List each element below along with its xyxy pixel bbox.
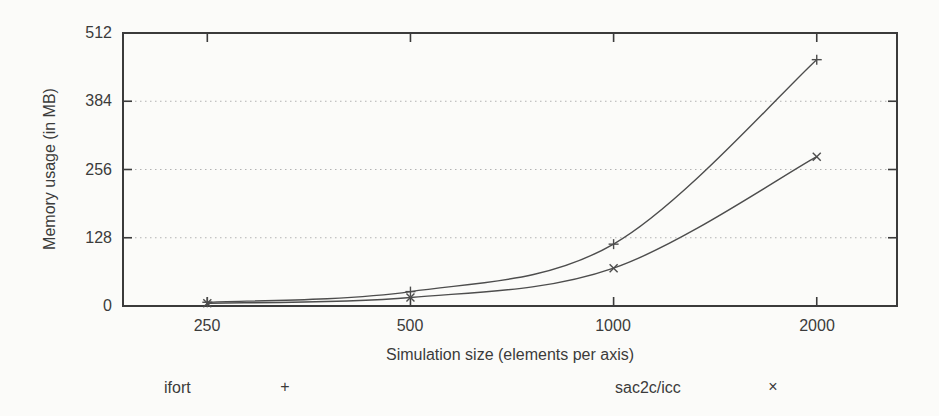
marker-cross-sac2c-icc-1000 bbox=[610, 264, 618, 272]
y-tick-label-128: 128 bbox=[40, 229, 112, 247]
x-tick-label-1000: 1000 bbox=[573, 316, 653, 336]
x-axis-title: Simulation size (elements per axis) bbox=[123, 345, 897, 365]
legend-label-sac2c-icc: sac2c/icc bbox=[615, 378, 681, 398]
y-tick-label-512: 512 bbox=[40, 24, 112, 42]
marker-plus-ifort-500 bbox=[405, 287, 415, 297]
cross-marker-icon: × bbox=[758, 377, 788, 397]
marker-cross-sac2c-icc-2000 bbox=[813, 153, 821, 161]
x-tick-label-250: 250 bbox=[167, 316, 247, 336]
x-tick-label-2000: 2000 bbox=[777, 316, 857, 336]
y-tick-label-384: 384 bbox=[40, 92, 112, 110]
plus-marker-icon: + bbox=[270, 377, 300, 397]
x-tick-label-500: 500 bbox=[370, 316, 450, 336]
memory-usage-figure: Memory usage (in MB) 0 128 256 384 512 2… bbox=[0, 0, 939, 416]
y-tick-label-0: 0 bbox=[40, 297, 112, 315]
series-line-sac2c-icc bbox=[207, 157, 816, 304]
series-line-ifort bbox=[207, 60, 816, 303]
y-tick-label-256: 256 bbox=[40, 161, 112, 179]
legend-label-ifort: ifort bbox=[164, 378, 191, 398]
marker-plus-ifort-1000 bbox=[609, 239, 619, 249]
